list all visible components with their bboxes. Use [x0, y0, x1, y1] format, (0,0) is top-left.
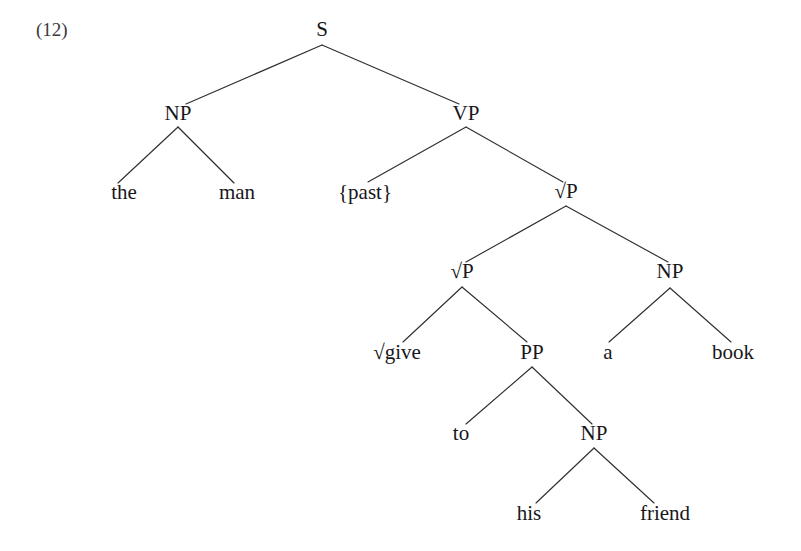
tree-node-the: the [111, 180, 137, 204]
tree-node-give: √give [373, 340, 421, 364]
tree-node-np_subj: NP [165, 101, 192, 125]
tree-node-np_goal: NP [581, 421, 608, 445]
tree-node-past: {past} [338, 180, 392, 204]
tree-node-rootp2: √P [450, 259, 473, 283]
tree-node-a: a [603, 340, 613, 364]
tree-node-man: man [219, 180, 256, 204]
tree-branch-np_goal-to-friend [594, 448, 654, 503]
branch-lines-group [118, 45, 731, 503]
tree-branch-rootp1-to-np_obj [566, 206, 668, 262]
tree-node-rootp1: √P [554, 179, 577, 203]
tree-branch-rootp1-to-rootp2 [466, 206, 566, 262]
tree-branch-np_subj-to-the [118, 127, 178, 183]
syntax-tree-figure: SNPVPtheman{past}√P√PNP√givePPabooktoNPh… [0, 0, 801, 551]
tree-branch-rootp2-to-give [403, 287, 462, 342]
tree-node-pp: PP [520, 340, 543, 364]
tree-branch-pp-to-to [466, 367, 532, 424]
tree-branch-s-to-vp [322, 45, 459, 104]
example-number-label: (12) [36, 19, 68, 41]
tree-node-s: S [316, 17, 328, 41]
tree-branch-np_obj-to-a [609, 288, 670, 342]
tree-branch-vp-to-past [368, 127, 466, 182]
tree-node-book: book [712, 340, 755, 364]
tree-node-his: his [517, 501, 542, 525]
tree-branch-np_obj-to-book [670, 288, 731, 342]
tree-branch-pp-to-np_goal [532, 367, 592, 424]
tree-node-np_obj: NP [657, 259, 684, 283]
tree-branch-s-to-np_subj [186, 45, 322, 104]
tree-branch-np_subj-to-man [178, 127, 234, 183]
syntax-tree-canvas: SNPVPtheman{past}√P√PNP√givePPabooktoNPh… [0, 0, 801, 551]
tree-node-to: to [453, 421, 469, 445]
tree-node-friend: friend [640, 501, 691, 525]
tree-branch-np_goal-to-his [536, 448, 594, 503]
tree-branch-rootp2-to-pp [462, 287, 527, 342]
tree-node-vp: VP [453, 101, 480, 125]
tree-branch-vp-to-rootp1 [466, 127, 563, 182]
